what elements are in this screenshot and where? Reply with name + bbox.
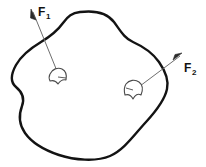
force-f1-subscript: 1	[46, 12, 51, 21]
force-f2-arrowhead	[173, 53, 182, 60]
force-f1-arrowhead	[31, 9, 37, 20]
force-f1-label: F	[38, 5, 45, 19]
force-f2-subscript: 2	[192, 68, 197, 77]
force-diagram-figure: F 1 F 2	[0, 0, 206, 167]
diagram-canvas: F 1 F 2	[0, 0, 206, 167]
force-f2-label: F	[184, 61, 191, 75]
rigid-body-outline	[12, 11, 168, 159]
